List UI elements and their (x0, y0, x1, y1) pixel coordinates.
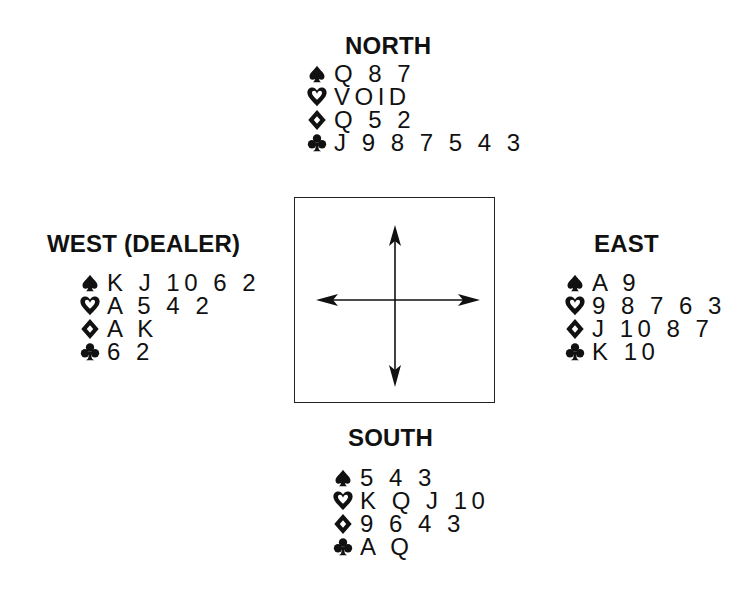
diamond-icon (77, 317, 103, 340)
south-spades: 5 4 3 (360, 466, 436, 489)
spade-icon (77, 271, 103, 294)
spade-icon (562, 271, 588, 294)
west-clubs: 6 2 (107, 340, 154, 363)
east-diamonds-row: J 10 8 7 (562, 317, 726, 340)
east-title: EAST (594, 231, 659, 257)
north-clubs-row: J 9 8 7 5 4 3 (304, 131, 525, 154)
west-hand: K J 10 6 2 A 5 4 2 A K 6 2 (77, 271, 260, 363)
club-icon (562, 340, 588, 363)
spade-icon (330, 466, 356, 489)
north-hand: Q 8 7 VOID Q 5 2 J 9 8 7 5 4 3 (304, 62, 525, 154)
west-hearts: A 5 4 2 (107, 294, 213, 317)
heart-icon (77, 294, 103, 317)
club-icon (330, 535, 356, 558)
north-title: NORTH (345, 33, 431, 59)
east-clubs-row: K 10 (562, 340, 726, 363)
west-hearts-row: A 5 4 2 (77, 294, 260, 317)
east-spades: A 9 (592, 271, 640, 294)
west-diamonds: A K (107, 317, 158, 340)
west-spades: K J 10 6 2 (107, 271, 260, 294)
west-diamonds-row: A K (77, 317, 260, 340)
north-diamonds-row: Q 5 2 (304, 108, 525, 131)
club-icon (77, 340, 103, 363)
north-spades-row: Q 8 7 (304, 62, 525, 85)
south-hand: 5 4 3 K Q J 10 9 6 4 3 A Q (330, 466, 489, 558)
south-clubs: A Q (360, 535, 414, 558)
north-clubs: J 9 8 7 5 4 3 (334, 131, 525, 154)
south-spades-row: 5 4 3 (330, 466, 489, 489)
heart-icon (562, 294, 588, 317)
east-hearts-row: 9 8 7 6 3 (562, 294, 726, 317)
north-diamonds: Q 5 2 (334, 108, 415, 131)
compass-arrows-icon (294, 197, 497, 405)
east-clubs: K 10 (592, 340, 659, 363)
diamond-icon (562, 317, 588, 340)
north-hearts: VOID (334, 85, 411, 108)
spade-icon (304, 62, 330, 85)
south-clubs-row: A Q (330, 535, 489, 558)
diamond-icon (304, 108, 330, 131)
south-diamonds-row: 9 6 4 3 (330, 512, 489, 535)
diamond-icon (330, 512, 356, 535)
heart-icon (330, 489, 356, 512)
west-spades-row: K J 10 6 2 (77, 271, 260, 294)
south-diamonds: 9 6 4 3 (360, 512, 465, 535)
heart-icon (304, 85, 330, 108)
east-spades-row: A 9 (562, 271, 726, 294)
east-hand: A 9 9 8 7 6 3 J 10 8 7 K 10 (562, 271, 726, 363)
south-hearts: K Q J 10 (360, 489, 489, 512)
east-diamonds: J 10 8 7 (592, 317, 713, 340)
south-hearts-row: K Q J 10 (330, 489, 489, 512)
club-icon (304, 131, 330, 154)
west-clubs-row: 6 2 (77, 340, 260, 363)
west-title: WEST (DEALER) (47, 231, 240, 257)
east-hearts: 9 8 7 6 3 (592, 294, 726, 317)
north-hearts-row: VOID (304, 85, 525, 108)
north-spades: Q 8 7 (334, 62, 415, 85)
south-title: SOUTH (348, 425, 433, 451)
